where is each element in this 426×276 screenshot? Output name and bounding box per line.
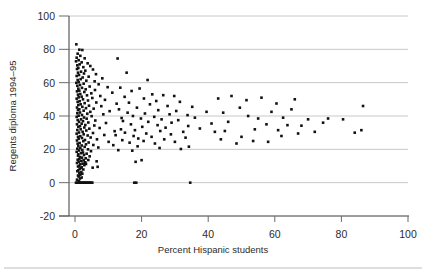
data-point <box>313 131 316 134</box>
data-point <box>143 97 146 100</box>
data-point <box>105 122 108 125</box>
data-point <box>342 118 345 121</box>
data-point <box>84 69 87 72</box>
y-tick-label-20: 20 <box>43 143 55 155</box>
data-point <box>76 142 79 145</box>
data-point <box>79 93 82 96</box>
data-point <box>90 150 93 153</box>
data-point <box>88 155 91 158</box>
data-point <box>186 114 189 117</box>
data-point <box>184 136 187 139</box>
data-point <box>174 141 177 144</box>
data-point <box>80 95 83 98</box>
data-point <box>322 121 325 124</box>
data-point <box>87 121 90 124</box>
data-point <box>87 148 90 151</box>
data-point <box>93 124 96 127</box>
data-point <box>79 111 82 114</box>
data-point <box>128 141 131 144</box>
data-point <box>224 130 227 133</box>
data-point <box>170 121 173 124</box>
data-point <box>93 80 96 83</box>
data-point <box>78 63 81 66</box>
data-point <box>130 123 133 126</box>
data-point <box>81 156 84 159</box>
data-point <box>102 113 105 116</box>
data-point <box>75 43 78 46</box>
data-point <box>270 111 273 114</box>
data-point <box>84 124 87 127</box>
data-point <box>76 106 79 109</box>
data-point <box>77 126 80 129</box>
data-point <box>77 81 80 84</box>
data-point <box>140 117 143 120</box>
x-tick-label-20: 20 <box>136 228 148 240</box>
data-point <box>199 127 202 130</box>
data-point <box>254 128 257 131</box>
x-axis-ticks <box>75 216 408 222</box>
data-point <box>104 99 107 102</box>
data-point <box>120 117 123 120</box>
data-point <box>160 118 163 121</box>
data-point <box>95 73 98 76</box>
data-point <box>87 141 90 144</box>
gridlines <box>69 16 408 183</box>
data-point <box>76 123 79 126</box>
data-point <box>115 102 118 105</box>
data-point <box>76 85 79 88</box>
data-point <box>189 181 192 184</box>
x-tick-label-60: 60 <box>269 228 281 240</box>
data-point <box>78 74 81 77</box>
data-point <box>83 154 86 157</box>
data-point <box>135 181 138 184</box>
data-point <box>92 107 95 110</box>
data-point <box>103 134 106 137</box>
data-point <box>180 148 183 151</box>
data-point <box>188 145 191 148</box>
data-point <box>75 151 78 154</box>
data-point <box>142 140 145 143</box>
data-point <box>76 101 79 104</box>
data-point <box>132 135 135 138</box>
data-point <box>75 132 78 135</box>
data-point <box>77 165 80 168</box>
data-point <box>151 93 154 96</box>
data-point <box>124 131 127 134</box>
data-point <box>170 133 173 136</box>
data-points <box>75 43 365 184</box>
data-point <box>137 137 140 140</box>
data-point <box>136 145 139 148</box>
data-point <box>76 52 79 55</box>
data-point <box>147 121 150 124</box>
data-point <box>245 99 248 102</box>
data-point <box>106 86 109 89</box>
data-point <box>159 130 162 133</box>
data-point <box>80 70 83 73</box>
data-point <box>118 108 121 111</box>
data-point <box>125 71 128 74</box>
y-axis-ticks <box>59 16 69 216</box>
x-tick-label-80: 80 <box>336 228 348 240</box>
data-point <box>85 107 88 110</box>
data-point <box>81 87 84 90</box>
data-point <box>83 102 86 105</box>
data-point <box>293 98 296 101</box>
data-point <box>79 55 82 58</box>
data-point <box>86 62 89 65</box>
data-point <box>95 160 98 163</box>
data-point <box>146 79 149 82</box>
data-point <box>96 166 99 169</box>
data-point <box>217 97 220 100</box>
data-point <box>97 146 100 149</box>
data-point <box>82 140 85 143</box>
data-point <box>111 91 114 94</box>
data-point <box>85 117 88 120</box>
data-point <box>79 84 82 87</box>
data-point <box>191 106 194 109</box>
data-point <box>280 135 283 138</box>
y-tick-label-80: 80 <box>43 43 55 55</box>
data-point <box>162 94 165 97</box>
data-point <box>75 97 78 100</box>
data-point <box>76 162 79 165</box>
data-point <box>122 120 125 123</box>
